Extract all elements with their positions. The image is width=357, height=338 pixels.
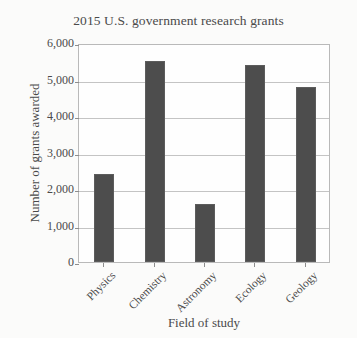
bar-astronomy [195, 204, 215, 262]
y-tick-label: 6,000 [4, 36, 74, 51]
chart-title: 2015 U.S. government research grants [0, 13, 357, 29]
y-tick-label: 2,000 [4, 182, 74, 197]
y-tick-mark [75, 155, 79, 156]
y-tick-mark [75, 82, 79, 83]
x-tick-mark [204, 263, 205, 267]
bar-geology [296, 87, 316, 262]
x-tick-mark [103, 263, 104, 267]
gridline-2000 [79, 191, 329, 192]
y-tick-mark [75, 118, 79, 119]
bar-ecology [245, 65, 265, 262]
x-tick-mark [305, 263, 306, 267]
gridline-5000 [79, 82, 329, 83]
gridline-4000 [79, 118, 329, 119]
x-tick-mark [154, 263, 155, 267]
y-tick-label: 3,000 [4, 146, 74, 161]
bar-physics [94, 174, 114, 262]
bar-chart-figure: 2015 U.S. government research grants Num… [0, 0, 357, 338]
x-axis-tick-labels: PhysicsChemistryAstronomyEcologyGeology [78, 263, 330, 315]
y-tick-mark [75, 228, 79, 229]
y-axis-tick-labels: 01,0002,0003,0004,0005,0006,000 [0, 44, 74, 263]
y-tick-label: 5,000 [4, 73, 74, 88]
x-axis-title: Field of study [78, 315, 330, 331]
y-tick-mark [75, 191, 79, 192]
y-tick-mark [75, 45, 79, 46]
x-tick-mark [254, 263, 255, 267]
gridline-3000 [79, 155, 329, 156]
y-tick-label: 0 [4, 255, 74, 270]
y-tick-label: 4,000 [4, 109, 74, 124]
y-tick-label: 1,000 [4, 219, 74, 234]
plot-area [78, 44, 330, 263]
bar-chemistry [145, 61, 165, 262]
